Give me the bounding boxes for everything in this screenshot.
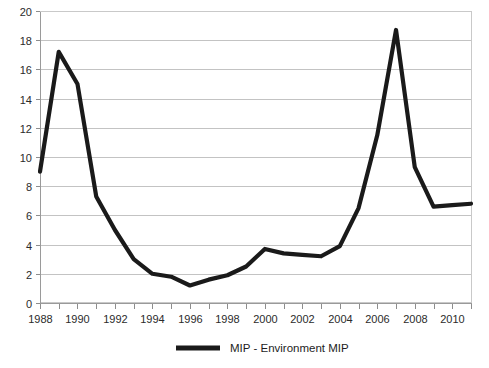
chart-container: 02468101214161820 1988199019921994199619…	[0, 0, 489, 368]
y-tick-label-4: 4	[26, 240, 32, 252]
x-tick-label-1998: 1998	[215, 313, 239, 325]
x-tick-label-2000: 2000	[253, 313, 277, 325]
x-axis-tick-labels: 1988199019921994199619982000200220042006…	[28, 313, 464, 325]
y-tick-label-12: 12	[20, 123, 32, 135]
y-tick-label-20: 20	[20, 6, 32, 18]
y-tick-label-10: 10	[20, 152, 32, 164]
line-chart: 02468101214161820 1988199019921994199619…	[0, 0, 489, 368]
x-tick-label-2006: 2006	[365, 313, 389, 325]
x-tick-label-1994: 1994	[140, 313, 164, 325]
x-tick-label-2010: 2010	[440, 313, 464, 325]
y-tick-label-14: 14	[20, 94, 32, 106]
y-tick-label-8: 8	[26, 181, 32, 193]
y-tick-label-6: 6	[26, 210, 32, 222]
x-tick-label-1988: 1988	[28, 313, 52, 325]
x-tick-label-1992: 1992	[103, 313, 127, 325]
y-tick-label-16: 16	[20, 64, 32, 76]
x-tick-label-2004: 2004	[328, 313, 352, 325]
x-tick-label-1996: 1996	[178, 313, 202, 325]
x-tick-label-2002: 2002	[290, 313, 314, 325]
y-tick-label-0: 0	[26, 298, 32, 310]
y-tick-label-18: 18	[20, 35, 32, 47]
x-tick-label-2008: 2008	[403, 313, 427, 325]
y-axis-tick-labels: 02468101214161820	[20, 6, 32, 310]
chart-legend: MIP - Environment MIP	[176, 342, 349, 354]
x-tick-label-1990: 1990	[65, 313, 89, 325]
legend-label-0: MIP - Environment MIP	[230, 342, 349, 354]
y-tick-label-2: 2	[26, 269, 32, 281]
